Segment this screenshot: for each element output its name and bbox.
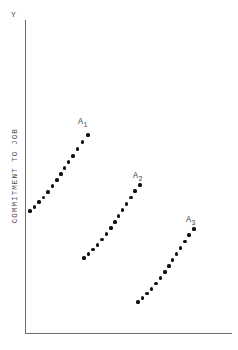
data-point (46, 190, 49, 193)
series-label-a1: A1 (78, 118, 87, 127)
data-point (179, 246, 182, 249)
data-point (183, 240, 186, 243)
data-point (129, 196, 132, 199)
data-point (150, 287, 153, 290)
data-point (82, 256, 85, 259)
y-axis-title: COMMITMENT TO JOB (12, 116, 20, 236)
data-point (125, 202, 128, 205)
data-point (192, 227, 195, 230)
scatter-plot-figure: Y COMMITMENT TO JOB A1 A2 A3 (0, 0, 238, 350)
data-point (76, 147, 79, 150)
data-point (81, 140, 84, 143)
series-label-a3: A3 (186, 216, 195, 225)
data-point (133, 189, 136, 192)
data-point (117, 214, 120, 217)
data-point (28, 209, 31, 212)
series-label-a3-sub: 3 (192, 220, 196, 227)
data-point (51, 184, 54, 187)
data-point (67, 160, 70, 163)
data-point (163, 270, 166, 273)
data-point (42, 196, 45, 199)
data-point (113, 220, 116, 223)
data-point (175, 252, 178, 255)
series-label-a2-base: A (133, 171, 138, 181)
data-point (167, 264, 170, 267)
series-label-a2: A2 (133, 172, 142, 181)
data-point (91, 248, 94, 251)
data-point (33, 205, 36, 208)
data-point (171, 258, 174, 261)
data-point (105, 232, 108, 235)
data-point (187, 233, 190, 236)
series-label-a3-base: A (186, 215, 191, 225)
data-point (71, 154, 74, 157)
data-point (121, 208, 124, 211)
series-label-a1-sub: 1 (84, 122, 88, 129)
data-point (136, 300, 139, 303)
data-point (96, 243, 99, 246)
data-point (87, 252, 90, 255)
data-point (100, 238, 103, 241)
data-point (63, 166, 66, 169)
data-point (59, 172, 62, 175)
data-point (37, 200, 40, 203)
data-series-layer (0, 0, 238, 350)
y-axis-line (25, 20, 26, 333)
data-point (145, 292, 148, 295)
y-axis-name: Y (11, 11, 16, 19)
data-point (55, 178, 58, 181)
x-axis-line (25, 333, 232, 334)
data-point (86, 133, 89, 136)
data-point (141, 296, 144, 299)
data-point (159, 276, 162, 279)
data-point (109, 226, 112, 229)
data-point (138, 183, 141, 186)
data-point (154, 282, 157, 285)
series-label-a2-sub: 2 (139, 176, 143, 183)
series-label-a1-base: A (78, 117, 83, 127)
